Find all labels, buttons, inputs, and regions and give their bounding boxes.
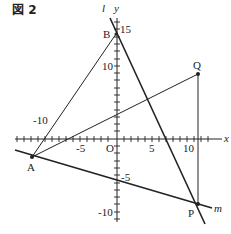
point-a [30,155,34,159]
x-tick-label: -10 [33,114,48,126]
origin-label: O [106,142,114,154]
point-p [196,202,200,206]
point-a-label: A [27,161,35,173]
line-l [110,18,205,224]
point-q [196,72,200,76]
y-axis-label: y [113,2,119,14]
y-tick-label: 15 [120,23,132,35]
x-axis-label: x [223,132,229,144]
figure-title: 図 2 [12,3,37,17]
y-axis [114,18,120,222]
x-tick-label: 5 [149,142,155,154]
point-p-label: P [188,207,194,219]
x-tick-label: 10 [183,142,195,154]
y-tick-label: 10 [102,60,114,72]
point-q-label: Q [193,59,201,71]
y-tick-label: -10 [98,206,113,218]
line-m-label: m [214,202,222,214]
point-b [115,33,118,36]
line-m [15,150,212,208]
x-tick-label: -5 [76,142,86,154]
line-l-label: l [102,2,105,14]
coordinate-diagram: 図 2 x [0,0,231,234]
segment-aq [32,74,198,157]
point-b-label: B [103,28,110,40]
